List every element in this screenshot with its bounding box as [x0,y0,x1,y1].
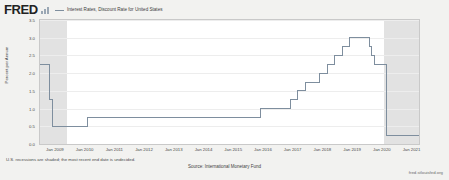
x-axis-tick-label: Jan 2016 [254,147,272,153]
x-axis-tick-label: Jan 2014 [195,147,213,153]
plot-area[interactable] [39,19,420,145]
x-axis-tick-label: Jan 2012 [135,147,153,153]
x-axis-tick-label: Jan 2018 [314,147,332,153]
y-axis-tick-label: 2.0 [29,71,35,76]
x-axis-tick-label: Jan 2013 [165,147,183,153]
legend-line-swatch [55,10,64,11]
y-axis-tick-label: 3.0 [29,35,35,40]
attribution-link[interactable]: fred.stlouisfed.org [409,170,443,176]
chart-legend: Interest Rates, Discount Rate for United… [55,5,163,15]
y-axis-tick-label: 0.0 [29,142,35,147]
source-label: Source: International Monetary Fund [0,164,449,170]
x-axis-tick-label: Jan 2009 [46,147,64,153]
x-axis-labels: Jan 2009Jan 2010Jan 2011Jan 2012Jan 2013… [39,147,420,155]
x-axis-tick-label: Jan 2017 [284,147,302,153]
y-axis-tick-label: 3.5 [29,18,35,23]
x-axis-tick-label: Jan 2010 [76,147,94,153]
y-axis-tick-label: 1.0 [29,106,35,111]
fred-logo[interactable]: FRED [4,3,38,16]
bar-chart-icon [41,6,51,14]
x-axis-tick-label: Jan 2011 [106,147,123,153]
y-axis-tick-label: 1.5 [29,88,35,93]
x-axis-tick-label: Jan 2021 [403,147,421,153]
y-axis-title: Percent per Annum [4,32,10,98]
chart-header: FRED Interest Rates, Discount Rate for U… [0,0,449,19]
recession-note: U.S. recessions are shaded; the most rec… [6,157,176,163]
fred-chart-widget: FRED Interest Rates, Discount Rate for U… [0,0,449,180]
x-axis-tick-label: Jan 2015 [224,147,242,153]
y-axis-tick-label: 2.5 [29,53,35,58]
legend-series-label: Interest Rates, Discount Rate for United… [67,7,163,13]
x-axis-tick-label: Jan 2019 [343,147,361,153]
series-path-discount-rate [40,38,419,135]
series-line-chart [40,20,419,144]
y-axis-tick-label: 0.5 [29,124,35,129]
x-axis-tick-label: Jan 2020 [373,147,391,153]
